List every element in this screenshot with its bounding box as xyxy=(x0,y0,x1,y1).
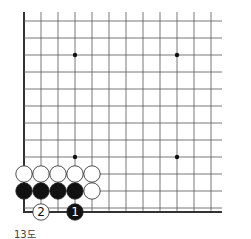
white-stone: 2 xyxy=(33,204,49,220)
white-stone xyxy=(33,166,49,182)
move-number: 1 xyxy=(71,205,79,219)
diagram-caption: 13도 xyxy=(14,226,36,239)
white-stone xyxy=(16,166,32,182)
black-stone: 1 xyxy=(67,204,83,220)
star-point-icon xyxy=(175,53,179,57)
white-stone xyxy=(50,166,66,182)
black-stone xyxy=(67,183,83,199)
white-stone xyxy=(67,166,83,182)
black-stone xyxy=(16,183,32,199)
black-stone xyxy=(33,183,49,199)
white-stone xyxy=(84,183,100,199)
move-number: 2 xyxy=(37,205,45,219)
white-stone xyxy=(84,166,100,182)
board-grid xyxy=(23,12,222,212)
black-stone xyxy=(50,183,66,199)
star-point-icon xyxy=(73,53,77,57)
star-point-icon xyxy=(73,155,77,159)
go-board: 21 xyxy=(0,0,251,239)
star-point-icon xyxy=(175,155,179,159)
